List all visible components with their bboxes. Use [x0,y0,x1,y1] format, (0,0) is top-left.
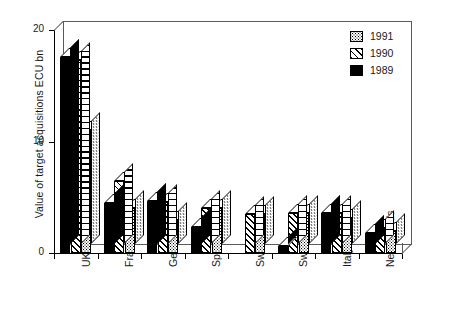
bar-face [321,213,331,253]
frame-back-top [63,21,411,22]
bar-sweden-1989 [278,246,288,253]
bar-face [245,214,255,253]
bar-side [255,196,264,244]
bar-side [157,183,166,244]
y-tick-label: 20 [20,23,44,34]
bar-side [135,190,144,244]
bar-side [178,202,187,244]
legend-label-1990: 1990 [370,47,393,59]
y-tick-mark [49,142,54,143]
legend-swatch-1989 [350,65,363,76]
bar-spain-1989 [191,227,201,253]
bar-italy-1989 [321,213,331,253]
frame-depth-topleft [54,21,64,31]
bar-side [222,190,231,244]
legend-swatch-1991 [350,31,363,42]
bar-switzerland-1990 [245,214,255,253]
y-tick-label: 10 [20,135,44,146]
x-tick-mark [315,254,316,259]
bar-face [365,233,375,253]
frame-depth-bottomright [402,244,412,254]
x-tick-mark [359,254,360,259]
bar-side [342,195,351,244]
x-tick-mark [402,254,403,259]
bar-netherlands-1989 [365,233,375,253]
y-axis-line [54,30,55,254]
bar-uk-1989 [60,57,70,253]
bar-side [396,213,405,244]
bar-face [60,57,70,253]
x-tick-mark [54,254,55,259]
bar-side [114,185,123,244]
y-axis-label: Value of target acquisitions ECU bn [33,39,45,229]
bar-side [70,39,79,244]
frame-front-right [402,243,403,254]
y-tick-label: 0 [20,246,44,257]
x-tick-mark [141,254,142,259]
bar-side [124,163,133,244]
bar-face [104,203,114,253]
bar-face [278,246,288,253]
bar-side [309,195,318,244]
bar-side [352,200,361,244]
x-tick-mark [98,254,99,259]
x-tick-mark [185,254,186,259]
bar-side [168,184,177,244]
bar-france-1989 [104,203,114,253]
x-tick-mark [272,254,273,259]
bar-chart: Value of target acquisitions ECU bn 0102… [0,0,454,327]
bar-face [191,227,201,253]
bar-side [91,112,100,244]
bar-germany-1989 [147,201,157,253]
bar-side [211,190,220,244]
x-tick-mark [228,254,229,259]
bar-side [81,42,90,244]
legend-swatch-1990 [350,48,363,59]
legend-label-1991: 1991 [370,30,393,42]
frame-back-right [411,21,412,245]
legend-label-1989: 1989 [370,64,393,76]
bar-face [147,201,157,253]
bar-side [265,196,274,244]
category-label-uk: UK [80,252,92,267]
